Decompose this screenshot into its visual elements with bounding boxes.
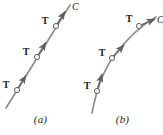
tangent-vector-1-panel-a: T (3, 76, 26, 93)
tangent-vector-2-panel-a: T (23, 43, 46, 60)
tangent-label-3-panel-a: T (42, 15, 49, 26)
tangent-label-2-panel-a: T (23, 46, 30, 57)
panel-b-caption: (b) (82, 112, 163, 126)
figure-tangent-vectors: T T T C (a) (0, 0, 163, 135)
tangent-label-1-panel-b: T (84, 80, 91, 91)
tangent-label-3-panel-b: T (126, 13, 133, 24)
panel-a-diagram: T T T C (0, 0, 81, 118)
panel-b-diagram: T T T C (82, 0, 163, 118)
curve-point-marker (136, 23, 141, 28)
curve-point-marker (94, 88, 99, 93)
curve-point-marker (53, 23, 58, 28)
tangent-vector-3-panel-b: T (126, 13, 155, 29)
curve-point-marker (34, 54, 39, 59)
curve-point-marker (109, 55, 114, 60)
tangent-label-2-panel-b: T (99, 47, 106, 58)
panel-b: T T T C (b) (82, 0, 163, 135)
curve-label-c-panel-a: C (72, 1, 79, 12)
panel-a-caption: (a) (0, 112, 81, 126)
curve-label-c-panel-b: C (157, 14, 163, 25)
curve-c-panel-b (92, 17, 156, 113)
tangent-label-1-panel-a: T (3, 79, 10, 90)
panel-a: T T T C (a) (0, 0, 81, 135)
curve-point-marker (14, 87, 19, 92)
tangent-vector-1-panel-b: T (84, 74, 102, 94)
